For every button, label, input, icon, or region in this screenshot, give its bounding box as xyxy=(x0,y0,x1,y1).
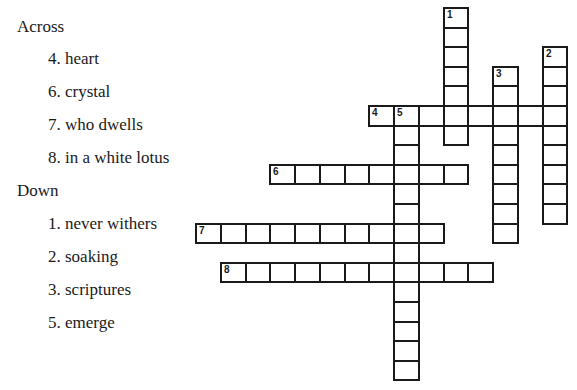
grid-cell[interactable] xyxy=(220,223,247,244)
grid-cell[interactable] xyxy=(492,144,519,166)
grid-cell[interactable] xyxy=(492,85,519,107)
grid-cell[interactable] xyxy=(319,164,346,185)
grid-cell[interactable] xyxy=(492,183,519,205)
grid-cell[interactable] xyxy=(492,125,519,146)
grid-cell[interactable] xyxy=(245,262,271,283)
grid-cell[interactable] xyxy=(368,223,395,244)
grid-cell[interactable] xyxy=(418,223,445,244)
grid-cell[interactable]: 5 xyxy=(393,105,420,127)
grid-cell[interactable]: 8 xyxy=(220,262,247,283)
grid-cell[interactable] xyxy=(542,85,568,107)
grid-cell[interactable] xyxy=(443,262,469,283)
grid-cell[interactable]: 3 xyxy=(492,66,519,87)
grid-cell[interactable] xyxy=(492,164,519,185)
grid-cell[interactable] xyxy=(492,105,519,127)
grid-cell[interactable] xyxy=(393,242,420,264)
grid-cell[interactable] xyxy=(269,223,296,244)
grid-cell[interactable] xyxy=(418,164,445,185)
crossword-grid: 12345678 xyxy=(0,0,577,390)
grid-cell[interactable] xyxy=(418,262,445,283)
grid-cell[interactable] xyxy=(443,125,469,146)
grid-cell[interactable] xyxy=(517,105,544,127)
grid-cell[interactable] xyxy=(443,105,469,127)
clue-number: 3 xyxy=(496,68,502,79)
grid-cell[interactable] xyxy=(443,46,469,68)
grid-cell[interactable]: 6 xyxy=(269,164,296,185)
grid-cell[interactable] xyxy=(245,223,271,244)
grid-cell[interactable] xyxy=(393,223,420,244)
grid-cell[interactable] xyxy=(542,144,568,166)
grid-cell[interactable] xyxy=(542,125,568,146)
grid-cell[interactable] xyxy=(393,301,420,323)
clue-number: 5 xyxy=(397,107,403,118)
grid-cell[interactable] xyxy=(492,223,519,244)
grid-cell[interactable]: 7 xyxy=(195,223,222,244)
grid-cell[interactable] xyxy=(344,164,370,185)
grid-cell[interactable] xyxy=(344,262,370,283)
grid-cell[interactable]: 1 xyxy=(443,7,469,29)
grid-cell[interactable] xyxy=(393,164,420,185)
grid-cell[interactable] xyxy=(418,105,445,127)
grid-cell[interactable] xyxy=(269,262,296,283)
clue-number: 8 xyxy=(224,264,230,275)
grid-cell[interactable] xyxy=(393,340,420,362)
grid-cell[interactable] xyxy=(542,183,568,205)
grid-cell[interactable] xyxy=(393,262,420,283)
grid-cell[interactable] xyxy=(542,164,568,185)
grid-cell[interactable] xyxy=(393,125,420,146)
grid-cell[interactable] xyxy=(319,223,346,244)
grid-cell[interactable] xyxy=(443,164,469,185)
grid-cell[interactable]: 2 xyxy=(542,46,568,68)
grid-cell[interactable]: 4 xyxy=(368,105,395,127)
grid-cell[interactable] xyxy=(368,262,395,283)
grid-cell[interactable] xyxy=(393,203,420,225)
grid-cell[interactable] xyxy=(393,360,420,381)
grid-cell[interactable] xyxy=(294,164,321,185)
grid-cell[interactable] xyxy=(443,27,469,48)
clue-number: 4 xyxy=(372,107,378,118)
clue-number: 1 xyxy=(447,9,453,20)
grid-cell[interactable] xyxy=(542,66,568,87)
grid-cell[interactable] xyxy=(294,223,321,244)
grid-cell[interactable] xyxy=(344,223,370,244)
grid-cell[interactable] xyxy=(542,105,568,127)
grid-cell[interactable] xyxy=(443,85,469,107)
grid-cell[interactable] xyxy=(542,203,568,225)
grid-cell[interactable] xyxy=(319,262,346,283)
grid-cell[interactable] xyxy=(393,144,420,166)
clue-number: 7 xyxy=(199,225,205,236)
clue-number: 6 xyxy=(273,166,279,177)
grid-cell[interactable] xyxy=(492,203,519,225)
grid-cell[interactable] xyxy=(294,262,321,283)
clue-number: 2 xyxy=(546,48,552,59)
grid-cell[interactable] xyxy=(368,164,395,185)
grid-cell[interactable] xyxy=(393,281,420,303)
grid-cell[interactable] xyxy=(393,183,420,205)
grid-cell[interactable] xyxy=(443,66,469,87)
grid-cell[interactable] xyxy=(467,262,494,283)
grid-cell[interactable] xyxy=(393,321,420,342)
grid-cell[interactable] xyxy=(467,105,494,127)
